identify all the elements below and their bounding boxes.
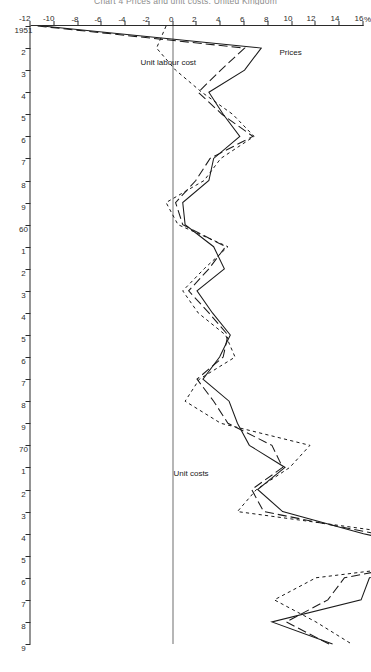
time-tick-label: 7 [21,600,25,609]
plot-area: Prices Unit costs Unit labour cost [30,26,363,644]
time-tick [25,92,30,93]
time-tick [25,622,30,623]
value-tick-label: 0 [168,15,172,24]
time-tick [25,70,30,71]
time-tick-label: 6 [21,136,25,145]
time-tick-label: 2 [21,48,25,57]
time-tick [25,578,30,579]
time-tick [25,379,30,380]
time-tick-label: 3 [21,70,25,79]
time-axis: 1951234567896012345678970123456789 [0,26,30,644]
time-tick-label: 5 [21,335,25,344]
time-tick [25,423,30,424]
time-tick-label: 8 [21,401,25,410]
series-layer [30,26,363,644]
time-tick [25,490,30,491]
value-tick-label: 8 [263,15,267,24]
time-tick-label: 70 [19,445,28,454]
value-tick-label: -2 [142,15,149,24]
time-tick-label: 5 [21,556,25,565]
time-tick-label: 7 [21,158,25,167]
time-tick-label: 9 [21,203,25,212]
time-tick [25,600,30,601]
series-unit-costs [37,26,371,644]
value-tick-label: -12 [18,15,30,24]
time-tick-label: 1 [21,247,25,256]
value-tick-label: 4 [216,15,220,24]
value-tick-label: -8 [70,15,77,24]
time-tick-label: 5 [21,114,25,123]
time-tick [25,269,30,270]
time-tick-label: 9 [21,423,25,432]
time-tick [25,291,30,292]
time-tick [25,335,30,336]
time-tick [25,534,30,535]
time-tick [25,357,30,358]
time-tick-label: 6 [21,357,25,366]
time-tick-label: 6 [21,578,25,587]
time-tick-label: 3 [21,512,25,521]
time-tick-label: 2 [21,490,25,499]
time-tick-label: 4 [21,92,25,101]
value-tick-label: 12 [307,15,316,24]
time-tick [25,114,30,115]
time-tick [25,401,30,402]
value-tick-label: -4 [118,15,125,24]
time-tick-label: 9 [21,644,25,653]
time-tick [25,644,30,645]
time-tick [25,158,30,159]
value-tick-label: 6 [240,15,244,24]
time-tick [25,136,30,137]
time-tick [25,467,30,468]
time-tick-label: 1 [21,467,25,476]
time-tick [25,313,30,314]
time-tick-label: 4 [21,534,25,543]
value-tick-label: 16 [354,15,363,24]
time-tick-label: 60 [19,225,28,234]
unit-labour-cost-label: Unit labour cost [140,58,196,67]
value-tick-label: 14 [330,15,339,24]
time-tick-label: 3 [21,291,25,300]
value-tick-label: -10 [42,15,54,24]
chart-page: Chart 4 Prices and unit costs: United Ki… [0,0,371,672]
time-tick [25,203,30,204]
value-tick-label: -6 [94,15,101,24]
prices-label: Prices [279,48,301,57]
value-axis-unit: % [363,15,370,24]
time-tick [25,556,30,557]
value-tick-label: 10 [283,15,292,24]
time-tick [25,247,30,248]
time-tick-label: 8 [21,622,25,631]
time-tick [25,48,30,49]
series-unit-labour-cost [156,26,371,644]
time-tick-label: 1951 [14,26,32,35]
time-tick-label: 7 [21,379,25,388]
rotated-chart-frame: % 1614121086420-2-4-6-8-10-12 1951234567… [0,0,371,672]
time-tick [25,512,30,513]
time-tick [25,181,30,182]
value-tick-label: 2 [192,15,196,24]
time-tick-label: 2 [21,269,25,278]
time-tick-label: 4 [21,313,25,322]
value-axis: % 1614121086420-2-4-6-8-10-12 [30,0,363,26]
unit-costs-label: Unit costs [173,469,208,478]
series-prices [42,26,371,644]
time-tick-label: 8 [21,181,25,190]
